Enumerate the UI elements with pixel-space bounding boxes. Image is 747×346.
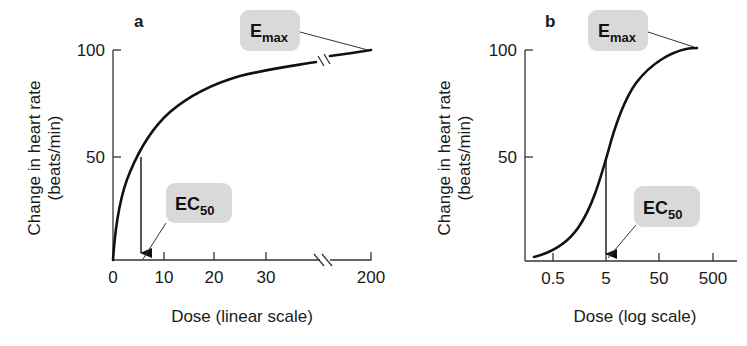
emax-leader-a [300, 32, 368, 50]
x-tick-label-20-a: 20 [205, 268, 224, 287]
svg-text:(beats/min): (beats/min) [455, 115, 474, 200]
ec50-leader-a [143, 223, 166, 259]
dose-response-curve-a [113, 62, 316, 260]
x-tick-label-50-b: 50 [650, 269, 669, 288]
x-tick-label-200-a: 200 [357, 268, 385, 287]
x-tick-label-0-5-b: 0.5 [541, 269, 565, 288]
y-tick-label-100-b: 100 [489, 41, 517, 60]
panel-a: a Change in heart rate (beats/min) 100 5… [25, 10, 385, 326]
x-axis-a [113, 252, 371, 260]
x-tick-label-500-b: 500 [699, 269, 727, 288]
panel-label-a: a [134, 12, 144, 31]
x-axis-title-b: Dose (log scale) [574, 307, 697, 326]
ec50-leader-b [608, 225, 636, 258]
dose-response-figure: a Change in heart rate (beats/min) 100 5… [0, 0, 747, 346]
y-tick-label-50-b: 50 [498, 148, 517, 167]
panel-b: b Change in heart rate (beats/min) 100 5… [435, 10, 737, 326]
y-tick-label-100-a: 100 [77, 41, 105, 60]
x-tick-label-30-a: 30 [257, 268, 276, 287]
emax-leader-b [648, 32, 694, 47]
x-tick-label-10-a: 10 [155, 268, 174, 287]
y-tick-label-50-a: 50 [86, 148, 105, 167]
x-tick-label-5-b: 5 [601, 269, 610, 288]
svg-text:Change in heart rate: Change in heart rate [25, 81, 44, 236]
x-axis-title-a: Dose (linear scale) [171, 307, 313, 326]
x-tick-label-0-a: 0 [108, 268, 117, 287]
svg-text:Change in heart rate: Change in heart rate [435, 81, 454, 236]
y-axis-title-a: Change in heart rate (beats/min) [25, 81, 64, 236]
panel-label-b: b [545, 12, 555, 31]
y-axis-title-b: Change in heart rate (beats/min) [435, 81, 474, 236]
svg-text:(beats/min): (beats/min) [45, 115, 64, 200]
